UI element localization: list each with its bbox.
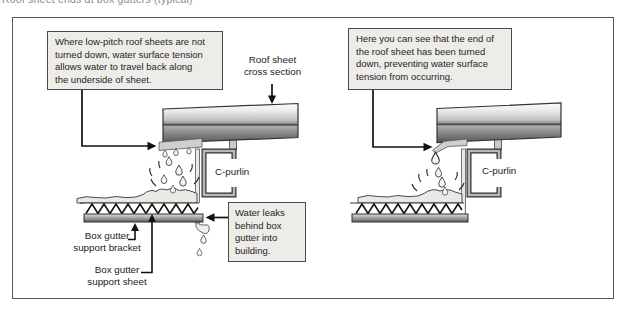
corrugated-sheet-left (80, 203, 203, 214)
leak-behind-gutter (196, 222, 209, 256)
gutter-water-left (77, 188, 197, 203)
c-purlin-label-right: C-purlin (482, 165, 516, 177)
support-bracket-label: Box gutter support bracket (62, 230, 152, 255)
right-diagram (350, 90, 561, 222)
support-sheet-label: Box gutter support sheet (72, 264, 162, 289)
roof-sheet-label-arrow (268, 84, 276, 104)
right-callout-connector (373, 90, 433, 151)
c-purlin-label-left: C-purlin (215, 166, 249, 178)
corrugated-sheet-right (350, 203, 464, 214)
roof-sheet-right (437, 103, 561, 143)
left-callout-connector (82, 90, 157, 150)
right-callout-box: Here you can see that the end of the roo… (348, 28, 512, 90)
splash-marks-left (150, 161, 199, 186)
figure-page: Roof sheet ends at box gutters (typical) (0, 0, 625, 315)
leak-note-box: Water leaks behind box gutter into build… (228, 202, 306, 262)
support-bracket-bar-right (352, 214, 468, 222)
support-bracket-bar-left (84, 214, 203, 222)
leak-note-arrow (206, 213, 229, 221)
left-callout-box: Where low-pitch roof sheets are not turn… (47, 31, 223, 90)
roof-sheet-label: Roof sheet cross section (230, 54, 315, 79)
roof-sheet-left (163, 104, 298, 144)
water-droplets-left (150, 157, 199, 193)
